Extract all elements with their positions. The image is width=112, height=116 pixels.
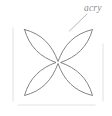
technical-drawing-svg xyxy=(0,0,112,116)
material-annotation-label: acry xyxy=(84,3,102,14)
annotation-leader-line xyxy=(70,14,88,31)
quatrefoil-shape-outline xyxy=(25,30,93,96)
guide-lines-group xyxy=(13,28,103,105)
figure-canvas: acry xyxy=(0,0,112,116)
